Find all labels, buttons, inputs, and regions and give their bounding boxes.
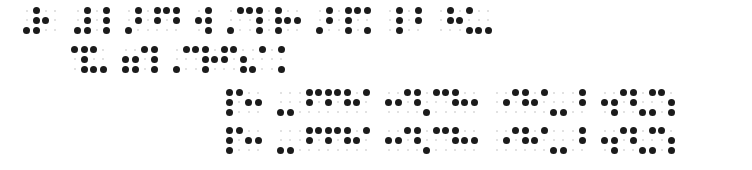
braille-word-gap <box>479 126 492 155</box>
braille-dot-4 <box>414 127 421 134</box>
braille-dot-1 <box>534 130 536 132</box>
braille-dot-2 <box>122 56 129 63</box>
braille-dot-6 <box>287 109 294 116</box>
braille-cell <box>474 6 493 35</box>
braille-cell <box>244 126 263 155</box>
braille-dot-6 <box>151 66 158 73</box>
braille-dot-3 <box>195 68 197 70</box>
braille-dot-4 <box>134 49 136 51</box>
braille-dot-6 <box>365 149 367 151</box>
braille-word-gap <box>111 6 124 35</box>
braille-dot-1 <box>226 127 233 134</box>
braille-dot-2 <box>515 139 517 141</box>
braille-word-gap <box>263 88 276 117</box>
braille-dot-5 <box>396 17 403 24</box>
braille-dot-5 <box>452 99 459 106</box>
braille-cell <box>657 88 676 117</box>
braille-dot-2 <box>249 19 251 21</box>
braille-dot-1 <box>90 46 97 53</box>
braille-dot-3 <box>318 149 320 151</box>
braille-dot-1 <box>553 130 555 132</box>
braille-word <box>70 45 108 74</box>
braille-dot-3 <box>572 111 574 113</box>
braille-dot-1 <box>299 92 301 94</box>
braille-dot-4 <box>505 130 507 132</box>
braille-dot-2 <box>319 19 321 21</box>
braille-dot-1 <box>408 10 410 12</box>
braille-dot-5 <box>238 101 240 103</box>
braille-dot-1 <box>198 10 200 12</box>
braille-dot-6 <box>611 109 618 116</box>
braille-cell <box>352 126 371 155</box>
braille-dot-2 <box>408 19 410 21</box>
braille-cell <box>460 126 479 155</box>
braille-dot-4 <box>236 89 243 96</box>
braille-dot-3 <box>604 111 606 113</box>
braille-dot-3 <box>357 29 359 31</box>
braille-dot-2 <box>407 101 409 103</box>
braille-dot-4 <box>326 7 333 14</box>
braille-dot-2 <box>461 99 468 106</box>
braille-dot-1 <box>604 130 606 132</box>
braille-cell <box>492 88 511 117</box>
braille-dot-2 <box>496 139 498 141</box>
braille-dot-1 <box>440 10 442 12</box>
braille-dot-4 <box>289 130 291 132</box>
braille-dot-6 <box>581 111 583 113</box>
braille-line <box>70 45 286 74</box>
braille-dot-3 <box>96 29 98 31</box>
braille-dot-5 <box>255 137 262 144</box>
braille-cell <box>315 6 334 35</box>
braille-dot-3 <box>423 147 430 154</box>
braille-cell <box>436 6 455 35</box>
braille-cell <box>384 88 403 117</box>
braille-dot-6 <box>649 147 656 154</box>
braille-dot-4 <box>447 7 454 14</box>
braille-dot-3 <box>248 111 250 113</box>
braille-dot-3 <box>356 149 358 151</box>
braille-dot-1 <box>642 92 644 94</box>
braille-dot-4 <box>414 89 421 96</box>
braille-dot-5 <box>522 99 529 106</box>
braille-dot-5 <box>471 99 478 106</box>
braille-dot-6 <box>202 66 209 73</box>
braille-dot-6 <box>84 27 91 34</box>
braille-dot-3 <box>268 29 270 31</box>
braille-cell <box>600 88 619 117</box>
braille-dot-4 <box>613 92 615 94</box>
braille-dot-6 <box>543 111 545 113</box>
braille-dot-2 <box>389 19 391 21</box>
braille-dot-5 <box>395 99 402 106</box>
braille-dot-1 <box>389 10 391 12</box>
braille-dot-4 <box>205 7 212 14</box>
braille-dot-5 <box>202 56 209 63</box>
braille-cell <box>638 88 657 117</box>
braille-dot-4 <box>306 89 313 96</box>
braille-dot-6 <box>185 68 187 70</box>
braille-dot-3 <box>623 149 625 151</box>
braille-word <box>121 45 159 74</box>
braille-dot-5 <box>543 101 545 103</box>
braille-word-gap <box>60 6 73 35</box>
braille-cell <box>143 6 162 35</box>
braille-dot-6 <box>205 27 212 34</box>
braille-dot-6 <box>275 27 282 34</box>
braille-word <box>225 126 263 155</box>
braille-dot-2 <box>77 19 79 21</box>
braille-dot-3 <box>515 149 517 151</box>
braille-dot-5 <box>630 99 637 106</box>
braille-dot-6 <box>524 149 526 151</box>
braille-dot-3 <box>356 111 358 113</box>
braille-dot-2 <box>318 101 320 103</box>
braille-dot-1 <box>230 46 237 53</box>
braille-dot-5 <box>240 56 247 63</box>
braille-dot-4 <box>102 49 104 51</box>
braille-dot-1 <box>478 10 480 12</box>
braille-dot-2 <box>176 58 178 60</box>
braille-dot-3 <box>623 111 625 113</box>
braille-dot-4 <box>344 89 351 96</box>
braille-cell <box>530 126 549 155</box>
braille-dot-3 <box>122 66 129 73</box>
braille-dot-1 <box>604 92 606 94</box>
braille-dot-1 <box>658 89 665 96</box>
